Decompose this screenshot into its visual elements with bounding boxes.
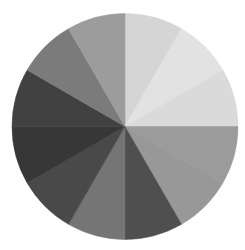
pie-chart (0, 0, 245, 250)
